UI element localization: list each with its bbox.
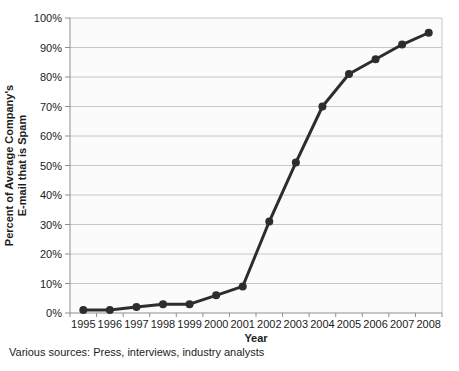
y-tick-label: 10% xyxy=(40,278,62,290)
data-point xyxy=(239,282,247,290)
x-tick-label: 2004 xyxy=(310,318,334,330)
x-tick-label: 2007 xyxy=(390,318,414,330)
y-tick-label: 30% xyxy=(40,219,62,231)
data-point xyxy=(345,70,353,78)
x-tick-label: 1996 xyxy=(98,318,122,330)
y-tick-label: 50% xyxy=(40,160,62,172)
y-tick-label: 90% xyxy=(40,42,62,54)
data-point xyxy=(186,300,194,308)
data-point xyxy=(372,55,380,63)
y-tick-label: 60% xyxy=(40,130,62,142)
y-tick-label: 20% xyxy=(40,248,62,260)
x-tick-label: 2006 xyxy=(363,318,387,330)
y-tick-label: 80% xyxy=(40,71,62,83)
x-tick-label: 1999 xyxy=(177,318,201,330)
y-tick-label: 100% xyxy=(34,12,62,24)
data-point xyxy=(159,300,167,308)
x-tick-label: 1995 xyxy=(71,318,95,330)
x-tick-label: 2000 xyxy=(204,318,228,330)
y-axis-title: E-mail that is Spam xyxy=(16,115,28,217)
data-point xyxy=(425,29,433,37)
x-tick-label: 2008 xyxy=(416,318,440,330)
y-tick-label: 70% xyxy=(40,101,62,113)
data-point xyxy=(106,306,114,314)
spam-growth-figure: 0%10%20%30%40%50%60%70%80%90%100%1995199… xyxy=(0,0,459,371)
data-point xyxy=(79,306,87,314)
data-point xyxy=(318,103,326,111)
data-point xyxy=(132,303,140,311)
x-tick-label: 2003 xyxy=(284,318,308,330)
y-tick-label: 40% xyxy=(40,189,62,201)
y-axis-title: Percent of Average Company's xyxy=(3,85,15,246)
x-axis-title: Year xyxy=(244,332,268,344)
data-point xyxy=(212,291,220,299)
data-point xyxy=(398,41,406,49)
source-note: Various sources: Press, interviews, indu… xyxy=(9,346,264,359)
x-tick-label: 1997 xyxy=(124,318,148,330)
data-point xyxy=(292,159,300,167)
data-point xyxy=(265,218,273,226)
x-tick-label: 2005 xyxy=(337,318,361,330)
x-tick-label: 1998 xyxy=(151,318,175,330)
spam-trend-line-chart: 0%10%20%30%40%50%60%70%80%90%100%1995199… xyxy=(0,0,459,345)
y-tick-label: 0% xyxy=(46,307,62,319)
x-tick-label: 2002 xyxy=(257,318,281,330)
x-tick-label: 2001 xyxy=(230,318,254,330)
